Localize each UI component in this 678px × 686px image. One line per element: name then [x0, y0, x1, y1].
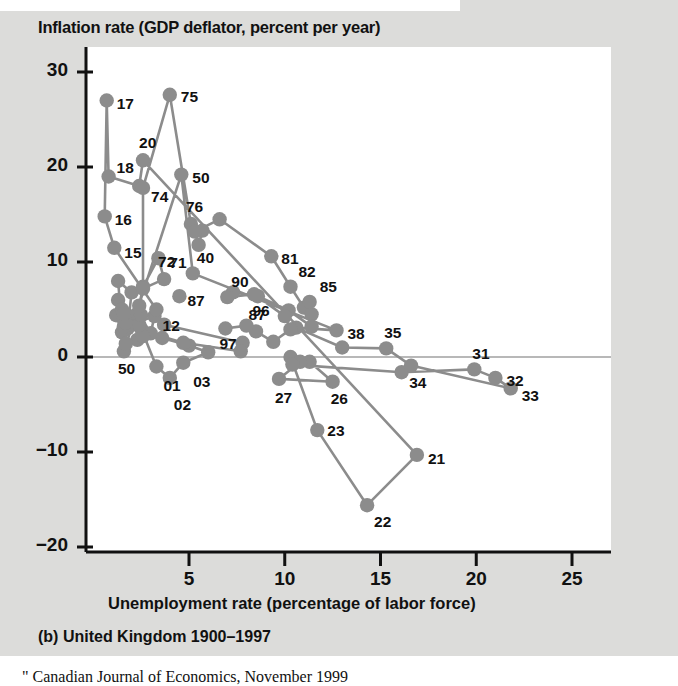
y-tick-label: 20: [14, 154, 68, 176]
point-year-label: 74: [151, 188, 168, 206]
point-year-label: 18: [117, 159, 134, 177]
point-year-label: 96: [252, 302, 269, 320]
point-year-label: 31: [472, 345, 489, 363]
x-tick-label: 5: [169, 568, 209, 590]
data-point-markers: [98, 88, 518, 513]
point-year-label: 81: [281, 250, 298, 268]
point-year-label: 17: [117, 95, 134, 113]
figure-panel-b: Inflation rate (GDP deflator, percent pe…: [0, 0, 678, 686]
point-year-label: 38: [347, 325, 364, 343]
x-tick-label: 15: [361, 568, 401, 590]
point-year-label: 35: [384, 324, 401, 342]
point-year-label: 16: [115, 211, 132, 229]
y-tick-label: 0: [14, 344, 68, 366]
y-tick-label: −20: [14, 534, 68, 556]
point-year-label: 03: [193, 373, 210, 391]
figure-caption: (b) United Kingdom 1900–1997: [38, 628, 271, 646]
x-tick-label: 10: [265, 568, 305, 590]
y-tick-label: 30: [14, 59, 68, 81]
point-year-label: 40: [197, 249, 214, 267]
point-year-label: 15: [124, 244, 141, 262]
point-year-label: 22: [374, 513, 391, 531]
point-year-label: 26: [331, 390, 348, 408]
point-year-label: 02: [174, 396, 191, 414]
y-tick-label: 10: [14, 249, 68, 271]
point-year-label: 23: [327, 422, 344, 440]
point-year-label: 76: [186, 198, 203, 216]
point-year-label: 34: [409, 374, 426, 392]
x-tick-label: 25: [552, 568, 592, 590]
point-year-label: 01: [163, 377, 180, 395]
x-tick-label: 20: [456, 568, 496, 590]
point-year-label: 20: [139, 134, 156, 152]
point-year-label: 12: [163, 317, 180, 335]
point-year-label: 27: [275, 389, 292, 407]
source-note: " Canadian Journal of Economics, Novembe…: [22, 668, 348, 686]
point-year-label: 72: [158, 253, 175, 271]
point-year-label: 21: [428, 450, 445, 468]
y-tick-label: −10: [14, 439, 68, 461]
point-year-label: 50: [192, 169, 209, 187]
point-year-label: 82: [298, 263, 315, 281]
point-year-label: 33: [522, 387, 539, 405]
point-year-label: 85: [320, 278, 337, 296]
point-year-label: 50: [118, 360, 135, 378]
point-year-label: 75: [181, 88, 198, 106]
point-year-label: 87: [187, 292, 204, 310]
point-year-label: 90: [231, 273, 248, 291]
x-axis-title: Unemployment rate (percentage of labor f…: [108, 594, 476, 613]
point-year-label: 97: [219, 335, 236, 353]
